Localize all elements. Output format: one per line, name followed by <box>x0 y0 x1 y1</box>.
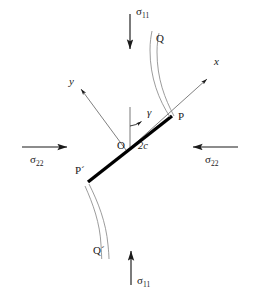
label-sigma22-left: σ22 <box>30 154 43 168</box>
label-crack-length: 2c <box>138 141 148 152</box>
label-wing-q: Q <box>156 33 164 44</box>
label-wing-q-prime: Q´ <box>93 245 105 256</box>
label-sigma11-bottom: σ11 <box>137 275 150 289</box>
label-tip-p: P <box>178 111 184 122</box>
label-origin: O <box>117 140 125 151</box>
label-axis-x: x <box>214 56 219 67</box>
label-axis-y: y <box>69 76 74 87</box>
label-tip-p-prime: P´ <box>75 165 85 176</box>
label-sigma11-top: σ11 <box>136 6 149 20</box>
angle-gamma-indicator <box>130 122 142 127</box>
label-angle-gamma: γ <box>147 107 151 118</box>
diagram-canvas <box>0 0 258 293</box>
label-sigma22-right: σ22 <box>205 154 218 168</box>
fracture-mechanics-figure: σ11 σ11 σ22 σ22 x y O 2c γ P P´ Q Q´ <box>0 0 258 293</box>
